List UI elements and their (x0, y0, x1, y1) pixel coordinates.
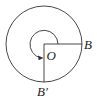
label-b: B (84, 37, 92, 52)
arrowhead-icon (38, 56, 44, 61)
label-b-prime: B′ (37, 84, 48, 99)
label-o: O (47, 48, 57, 63)
rotation-diagram: O B B′ (0, 0, 97, 100)
